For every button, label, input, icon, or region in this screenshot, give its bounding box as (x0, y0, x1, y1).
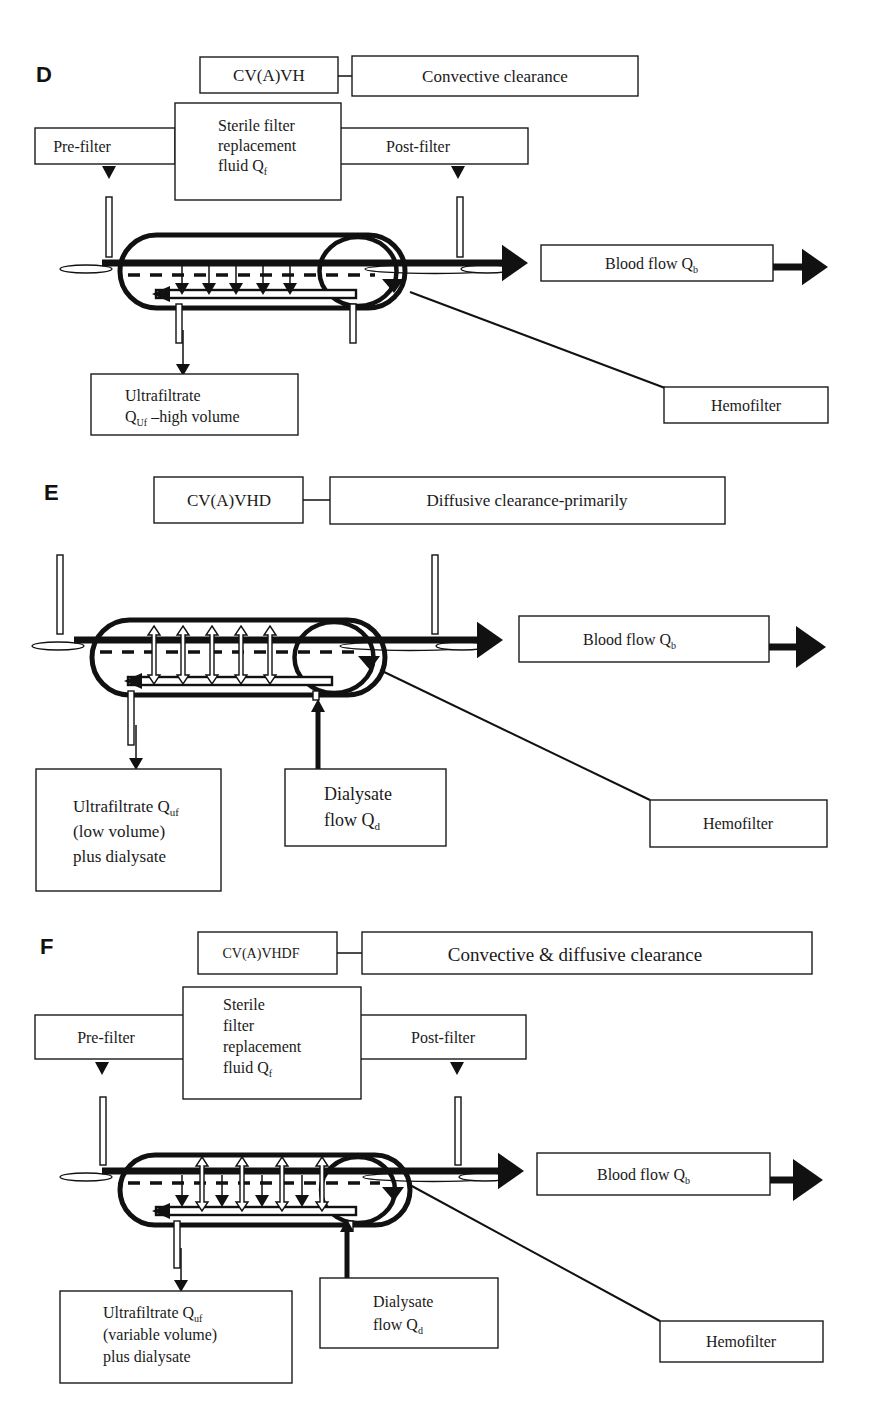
tube-icon (106, 197, 112, 257)
ultrafiltrate-line-2: (low volume) (73, 822, 165, 841)
dialysate-in-arrowhead-icon (311, 699, 325, 712)
dialysate-line-1: Dialysate (324, 784, 392, 804)
blood-flow-out-arrow-icon (796, 626, 826, 668)
tube-icon (57, 555, 63, 634)
tube-icon (313, 691, 319, 700)
tube-icon (455, 1097, 461, 1165)
hemofilter-label: Hemofilter (706, 1333, 777, 1350)
mode-label: CV(A)VHDF (223, 946, 300, 962)
mode-label: CV(A)VH (233, 66, 305, 85)
diffusion-double-arrow-icon (148, 626, 160, 684)
ultrafiltrate-box (91, 374, 298, 435)
pre-filter-label: Pre-filter (53, 138, 111, 155)
panel-f: FCV(A)VHDFConvective & diffusive clearan… (35, 932, 823, 1383)
panel-e: ECV(A)VHDDiffusive clearance-primarilyBl… (32, 477, 827, 891)
convection-arrow-icon (295, 1195, 309, 1207)
panel-d: DCV(A)VHConvective clearancePre-filterPo… (35, 56, 828, 435)
tube-icon (457, 197, 463, 257)
ultrafiltrate-line-3: plus dialysate (103, 1348, 191, 1366)
convection-arrow-icon (175, 1195, 189, 1207)
hemofilter-label: Hemofilter (711, 397, 782, 414)
ultrafiltrate-line-3: plus dialysate (73, 847, 166, 866)
dialysate-box (285, 769, 446, 846)
convection-arrow-icon (174, 1280, 188, 1292)
diffusion-double-arrow-icon (177, 626, 189, 684)
ultrafiltrate-line-1: Ultrafiltrate (125, 387, 201, 404)
post-filter-arrowhead-icon (450, 1062, 464, 1075)
tube-icon (432, 555, 438, 634)
hemofilter-label: Hemofilter (703, 815, 774, 832)
tube-icon (174, 1221, 180, 1268)
post-filter-label: Post-filter (386, 138, 451, 155)
hemofiltration-modes-diagram: DCV(A)VHConvective clearancePre-filterPo… (0, 0, 871, 1420)
mode-label: CV(A)VHD (187, 491, 271, 510)
clearance-label: Convective & diffusive clearance (448, 944, 702, 965)
pre-filter-arrowhead-icon (102, 166, 116, 179)
diffusion-double-arrow-icon (264, 626, 276, 684)
pre-filter-label: Pre-filter (77, 1029, 135, 1046)
clearance-label: Diffusive clearance-primarily (426, 491, 628, 510)
tube-icon (350, 304, 356, 343)
ultrafiltrate-line-1: Ultrafiltrate Quf (73, 797, 179, 818)
tube-icon (176, 304, 182, 343)
blood-flow-arrow-icon (498, 1153, 524, 1189)
diffusion-double-arrow-icon (235, 626, 247, 684)
hemofilter-leader-line (410, 292, 665, 388)
tube-icon (100, 1097, 106, 1165)
blood-flow-arrow-icon (477, 622, 503, 658)
clearance-label: Convective clearance (422, 67, 568, 86)
post-filter-label: Post-filter (411, 1029, 476, 1046)
panel-letter: E (44, 480, 59, 505)
ultrafiltrate-line-2: (variable volume) (103, 1326, 217, 1344)
convection-arrow-icon (215, 1195, 229, 1207)
blood-flow-out-arrow-icon (802, 249, 828, 285)
dialysate-line-1: Dialysate (373, 1293, 433, 1311)
diffusion-double-arrow-icon (206, 626, 218, 684)
blood-flow-arrow-icon (502, 245, 528, 281)
tube-icon (128, 691, 134, 745)
convection-arrow-icon (129, 758, 143, 770)
dialysate-line-2: flow Qd (324, 810, 381, 832)
panel-letter: F (40, 934, 53, 959)
pre-filter-arrowhead-icon (95, 1062, 109, 1075)
panel-letter: D (36, 62, 52, 87)
convection-arrow-icon (255, 1195, 269, 1207)
post-filter-arrowhead-icon (451, 166, 465, 179)
blood-flow-out-arrow-icon (793, 1159, 823, 1201)
dialysate-box (320, 1278, 498, 1348)
